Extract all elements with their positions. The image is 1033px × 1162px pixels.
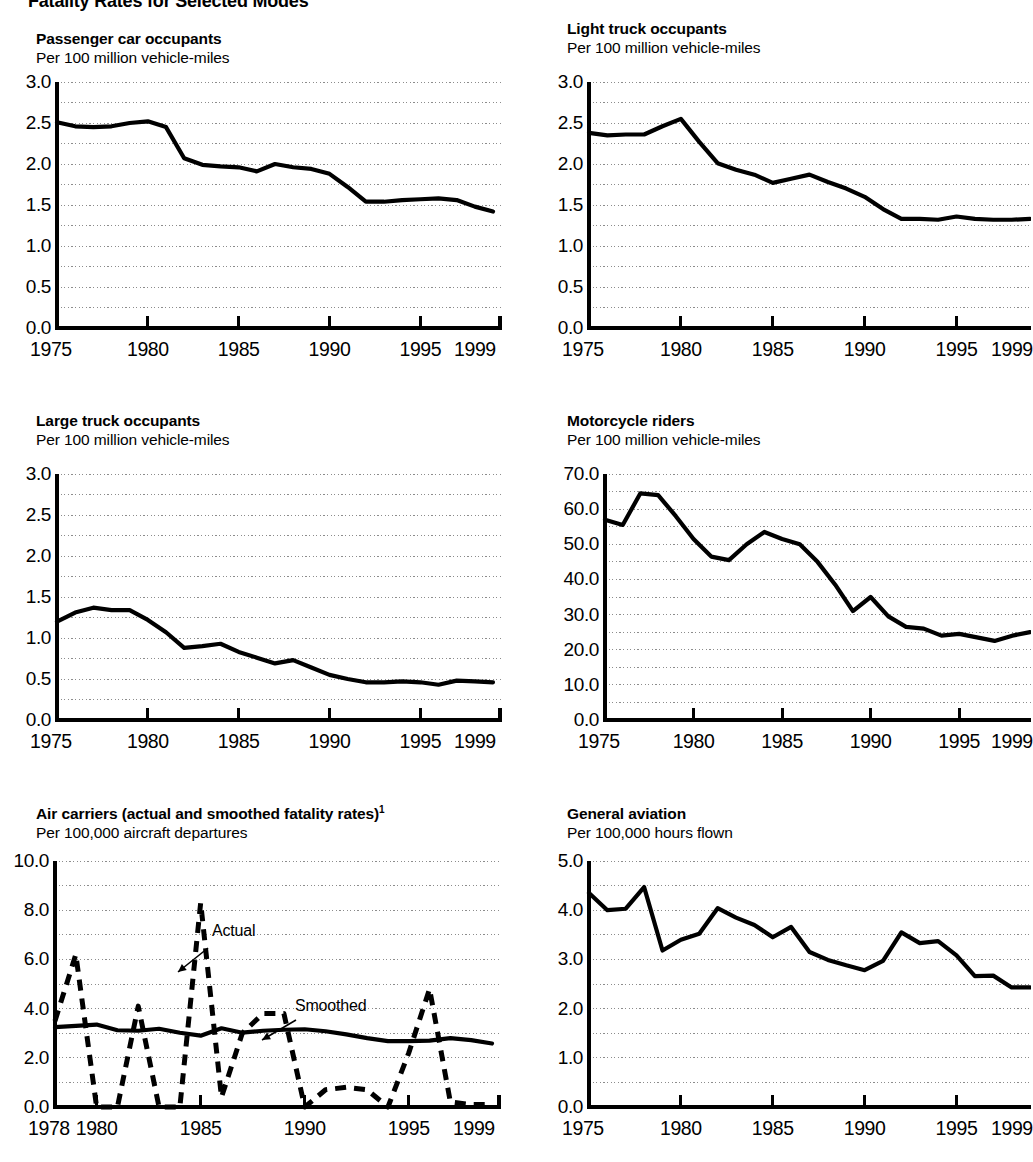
y-tick-label: 0.0	[558, 1096, 583, 1118]
x-tick-label: 1999	[453, 1117, 495, 1140]
panel-subtitle: Per 100 million vehicle-miles	[36, 48, 230, 67]
series-line-motorcycle-riders	[605, 493, 1030, 641]
y-tick-label: 8.0	[24, 899, 49, 921]
chart-svg	[530, 849, 1031, 1162]
y-tick-label: 1.0	[26, 235, 51, 257]
x-tick-label: 1985	[752, 1117, 794, 1140]
x-tick-label: 1985	[218, 338, 260, 361]
panel-subtitle: Per 100 million vehicle-miles	[567, 430, 761, 449]
plot-area: 0.01.02.03.04.05.01975198019851990199519…	[530, 849, 1031, 1162]
y-tick-label: 50.0	[564, 533, 599, 555]
x-tick-label: 1980	[660, 1117, 702, 1140]
panel-subtitle: Per 100 million vehicle-miles	[567, 38, 761, 57]
y-tick-label: 40.0	[564, 568, 599, 590]
x-tick-label: 1985	[752, 338, 794, 361]
x-tick-label: 1999	[991, 338, 1033, 361]
x-tick-label: 1990	[309, 730, 351, 753]
y-tick-label: 1.5	[558, 194, 583, 216]
y-tick-label: 2.5	[26, 504, 51, 526]
y-tick-label: 0.0	[26, 317, 51, 339]
y-tick-label: 1.5	[26, 586, 51, 608]
x-tick-label: 1995	[936, 338, 978, 361]
series-line-passenger-car-occupants	[57, 121, 493, 211]
y-tick-label: 4.0	[24, 998, 49, 1020]
x-tick-label: 1975	[562, 1117, 604, 1140]
y-tick-label: 1.5	[26, 194, 51, 216]
chart-panel-large-truck-occupants: Large truck occupants Per 100 million ve…	[0, 412, 515, 792]
y-tick-label: 0.5	[26, 668, 51, 690]
y-tick-label: 4.0	[558, 899, 583, 921]
x-tick-label: 1975	[578, 730, 620, 753]
x-tick-label: 1985	[180, 1117, 222, 1140]
y-tick-label: 2.0	[26, 545, 51, 567]
panel-title: Light truck occupants	[567, 20, 727, 37]
y-tick-label: 10.0	[14, 850, 49, 872]
panel-title: General aviation	[567, 805, 686, 822]
panel-title: Passenger car occupants	[36, 30, 222, 47]
figure-title: Fatality Rates for Selected Modes	[28, 0, 309, 12]
chart-panel-air-carriers: Air carriers (actual and smoothed fatali…	[0, 805, 515, 1162]
x-tick-label: 1990	[844, 1117, 886, 1140]
x-tick-label: 1999	[454, 730, 496, 753]
y-tick-label: 6.0	[24, 948, 49, 970]
x-tick-label: 1975	[30, 730, 72, 753]
y-tick-label: 5.0	[558, 850, 583, 872]
y-tick-label: 20.0	[564, 639, 599, 661]
y-tick-label: 0.0	[26, 709, 51, 731]
chart-panel-motorcycle-riders: Motorcycle riders Per 100 million vehicl…	[530, 412, 1031, 792]
x-tick-label: 1980	[127, 730, 169, 753]
x-tick-label: 1975	[562, 338, 604, 361]
panel-title: Air carriers (actual and smoothed fatali…	[36, 805, 385, 822]
x-tick-label: 1999	[454, 338, 496, 361]
series-line-actual	[55, 903, 492, 1107]
series-line-smoothed	[55, 1025, 492, 1044]
y-tick-label: 60.0	[564, 498, 599, 520]
y-tick-label: 3.0	[26, 463, 51, 485]
panel-subtitle: Per 100,000 hours flown	[567, 823, 733, 842]
footnote-marker: 1	[379, 804, 384, 815]
y-tick-label: 30.0	[564, 604, 599, 626]
x-tick-label: 1990	[284, 1117, 326, 1140]
y-tick-label: 3.0	[26, 71, 51, 93]
y-tick-label: 0.0	[558, 317, 583, 339]
y-tick-label: 2.0	[558, 153, 583, 175]
chart-panel-light-truck-occupants: Light truck occupants Per 100 million ve…	[530, 20, 1031, 410]
x-tick-label: 1978	[28, 1117, 70, 1140]
x-tick-label: 1980	[76, 1117, 118, 1140]
x-tick-label: 1995	[938, 730, 980, 753]
annotation-label-actual: Actual	[212, 922, 255, 940]
y-tick-label: 1.0	[558, 1047, 583, 1069]
y-tick-label: 2.0	[558, 998, 583, 1020]
y-tick-label: 10.0	[564, 674, 599, 696]
x-tick-label: 1995	[936, 1117, 978, 1140]
x-tick-label: 1980	[127, 338, 169, 361]
y-tick-label: 1.0	[558, 235, 583, 257]
chart-panel-general-aviation: General aviation Per 100,000 hours flown…	[530, 805, 1031, 1162]
x-tick-label: 1990	[844, 338, 886, 361]
x-tick-label: 1999	[991, 730, 1033, 753]
x-tick-label: 1995	[399, 338, 441, 361]
x-tick-label: 1985	[218, 730, 260, 753]
x-tick-label: 1975	[30, 338, 72, 361]
panel-subtitle: Per 100 million vehicle-miles	[36, 430, 230, 449]
x-tick-label: 1980	[673, 730, 715, 753]
plot-area: 0.010.020.030.040.050.060.070.0197519801…	[530, 462, 1031, 802]
y-tick-label: 1.0	[26, 627, 51, 649]
y-tick-label: 3.0	[558, 948, 583, 970]
x-tick-label: 1995	[388, 1117, 430, 1140]
y-tick-label: 2.0	[26, 153, 51, 175]
plot-area: 0.00.51.01.52.02.53.01975198019851990199…	[530, 70, 1031, 410]
x-tick-label: 1990	[850, 730, 892, 753]
panel-subtitle: Per 100,000 aircraft departures	[36, 823, 247, 842]
chart-svg	[0, 849, 515, 1162]
plot-area: 0.00.51.01.52.02.53.01975198019851990199…	[0, 462, 515, 802]
panel-title: Large truck occupants	[36, 412, 200, 429]
y-tick-label: 2.0	[24, 1047, 49, 1069]
y-tick-label: 0.5	[26, 276, 51, 298]
y-tick-label: 70.0	[564, 463, 599, 485]
y-tick-label: 3.0	[558, 71, 583, 93]
plot-area: 0.02.04.06.08.010.0197819801985199019951…	[0, 849, 515, 1162]
panel-title: Motorcycle riders	[567, 412, 695, 429]
y-tick-label: 0.0	[24, 1096, 49, 1118]
series-line-general-aviation	[589, 887, 1030, 987]
